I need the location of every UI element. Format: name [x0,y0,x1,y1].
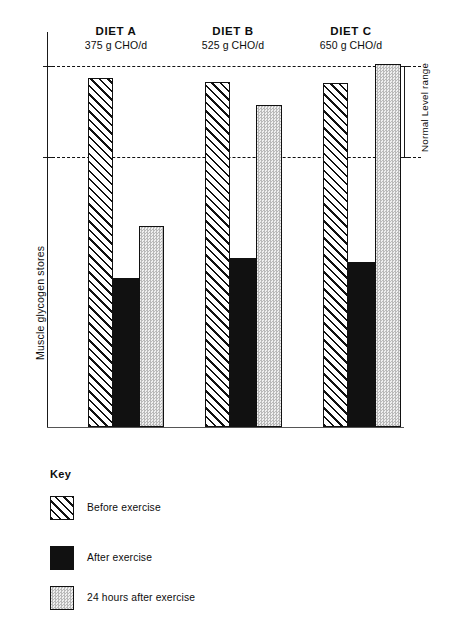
x-axis-baseline [47,427,404,428]
bar-diet-b-24h-after-exercise [256,105,282,427]
legend-swatch-24h-after-exercise [50,586,74,610]
group-title-diet-c: DIET C [286,24,416,38]
bar-diet-a-before-exercise [88,78,113,427]
group-dose-diet-c: 650 g CHO/d [286,38,416,53]
legend-label-after-exercise: After exercise [87,552,152,563]
group-header-diet-c: DIET C 650 g CHO/d [286,24,416,53]
normal-range-axis [404,66,405,158]
bar-diet-a-after-exercise [113,278,139,427]
bar-diet-c-after-exercise [348,262,375,427]
legend-swatch-before-exercise [50,496,74,520]
normal-range-label: Normal Level range [419,62,431,152]
legend-label-24h-after-exercise: 24 hours after exercise [87,592,195,603]
group-header-diet-b: DIET B 525 g CHO/d [168,24,298,53]
legend-label-before-exercise: Before exercise [87,502,161,513]
bar-diet-b-before-exercise [205,82,230,427]
group-header-diet-a: DIET A 375 g CHO/d [51,24,181,53]
y-axis-label: Muscle glycogen stores [34,246,46,360]
group-dose-diet-a: 375 g CHO/d [51,38,181,53]
legend-swatch-after-exercise [50,546,74,570]
legend-title: Key [50,468,71,480]
bar-diet-b-after-exercise [230,258,256,427]
y-axis-line [47,32,48,428]
group-dose-diet-b: 525 g CHO/d [168,38,298,53]
reference-line-normal-upper [47,66,421,67]
group-title-diet-a: DIET A [51,24,181,38]
glycogen-bar-chart: Muscle glycogen stores Normal Level rang… [0,0,465,626]
bar-diet-c-before-exercise [323,83,348,427]
bar-diet-c-24h-after-exercise [375,64,401,427]
group-title-diet-b: DIET B [168,24,298,38]
bar-diet-a-24h-after-exercise [139,226,164,427]
